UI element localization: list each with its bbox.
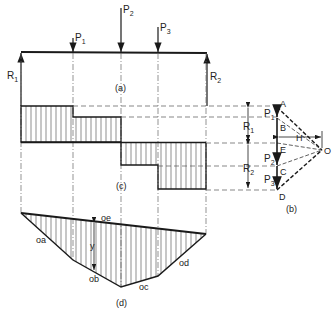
funicular-polygon-figure: P1 P2 P3 R1 R2 (a): [0, 0, 336, 312]
closing-line-oe: [21, 213, 206, 234]
label-oa: oa: [36, 235, 46, 245]
beam-diagram: P1 P2 P3 R1 R2 (a): [7, 4, 221, 106]
label-p2: P2: [123, 4, 134, 17]
label-oc: oc: [139, 282, 149, 292]
horizontal-projections: [73, 106, 277, 190]
label-r2-polygon: R2: [243, 163, 254, 176]
label-r2: R2: [210, 71, 221, 84]
label-od: od: [179, 258, 189, 268]
label-p1-polygon: P1: [264, 108, 275, 121]
panel-label-b: (b): [286, 204, 297, 214]
label-y: y: [90, 241, 95, 251]
point-e: E: [280, 145, 286, 155]
label-p3: P3: [160, 22, 171, 35]
panel-label-c: (c): [116, 181, 127, 191]
shear-diagram: (c): [21, 106, 206, 191]
label-p3-polygon: P3: [264, 174, 275, 187]
moment-diagram: y oa ob oc oa od oe (d): [21, 200, 206, 308]
point-o: O: [324, 146, 331, 156]
force-polygon: R1 R2 H A B E C D O P1 P2 P3 (b): [243, 99, 331, 214]
label-oe: oe: [101, 213, 111, 223]
point-a: A: [280, 99, 286, 109]
panel-label-a: (a): [115, 83, 126, 93]
projection-lines: [21, 53, 206, 287]
beam: [21, 52, 207, 53]
point-d: D: [279, 192, 286, 202]
label-r1-polygon: R1: [243, 121, 254, 134]
label-ob: ob: [89, 274, 99, 284]
label-p1: P1: [75, 32, 86, 45]
panel-label-d: (d): [116, 298, 127, 308]
point-b: B: [280, 123, 286, 133]
label-h: H: [296, 133, 303, 143]
label-p2-polygon: P2: [264, 153, 275, 166]
label-r1: R1: [7, 70, 18, 83]
point-c: C: [280, 167, 287, 177]
